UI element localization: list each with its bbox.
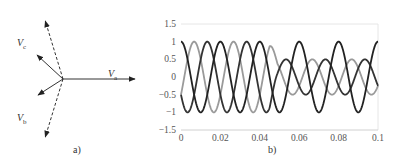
x-axis-ticks: 00.020.040.060.080.1 (179, 133, 385, 143)
phasor-vb-arrow (38, 79, 63, 95)
series-phase-a (181, 42, 378, 113)
x-tick-label: 0.02 (212, 133, 229, 143)
figure: VaVbVc a) 1.510.50−0.5−1−1.5 00.020.040.… (0, 0, 398, 168)
y-tick-label: 1.5 (164, 19, 176, 29)
panel-b-caption: b) (268, 144, 276, 156)
y-tick-label: −0.5 (159, 90, 176, 100)
x-tick-label: 0 (179, 133, 184, 143)
phasor-diagram: VaVbVc (17, 21, 135, 137)
x-tick-label: 0.08 (330, 133, 347, 143)
x-tick-label: 0.04 (251, 133, 268, 143)
phasor-va-label: Va (108, 68, 118, 82)
y-tick-label: 0.5 (164, 54, 176, 64)
x-tick-label: 0.06 (291, 133, 308, 143)
phasor-vb-dashed-arrow (45, 79, 63, 137)
phasor-vc-label: Vc (17, 37, 26, 51)
y-tick-label: 0 (171, 72, 176, 82)
y-tick-label: −1.5 (159, 125, 176, 135)
waveform-plot: 1.510.50−0.5−1−1.5 00.020.040.060.080.1 (159, 19, 384, 143)
y-axis-ticks: 1.510.50−0.5−1−1.5 (159, 19, 176, 135)
panel-a-caption: a) (73, 144, 81, 156)
y-tick-label: −1 (166, 107, 176, 117)
waveform-curves (181, 42, 378, 113)
y-tick-label: 1 (171, 37, 176, 47)
x-tick-label: 0.1 (372, 133, 384, 143)
phasor-vb-label: Vb (17, 112, 27, 126)
